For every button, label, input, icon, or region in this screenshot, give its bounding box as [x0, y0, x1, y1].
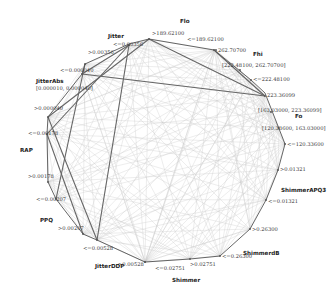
value-label: 223.36099: [267, 92, 295, 98]
value-label: >0.26300: [252, 226, 278, 232]
variable-interval: [0.000010, 0.000040]: [36, 85, 93, 91]
value-node[interactable]: [213, 49, 215, 51]
value-node[interactable]: [239, 69, 241, 71]
value-node[interactable]: [189, 258, 191, 260]
weak-edge: [220, 112, 271, 256]
value-node[interactable]: [219, 255, 221, 257]
value-label: <=120.33600: [287, 141, 324, 147]
weak-edge: [47, 134, 278, 170]
value-node[interactable]: [215, 49, 217, 51]
weak-edge: [149, 39, 220, 256]
value-label: <=0.01321: [268, 198, 298, 204]
value-label: [120.33600, 163.03000]: [262, 125, 325, 131]
value-label: >0.00528: [118, 261, 144, 267]
value-label: <=189.62100: [187, 36, 224, 42]
value-node[interactable]: [277, 169, 279, 171]
value-label: <=222.48100: [253, 76, 290, 82]
network-diagram: Jitter<=0.00356>0.00356Flo>189.62100<=18…: [0, 0, 331, 297]
value-label: <=0.00356: [113, 41, 143, 47]
variable-name: Fo: [295, 113, 303, 119]
value-label: >0.00356: [88, 49, 114, 55]
value-label: <=0.02751: [155, 265, 185, 271]
weak-edge: [48, 182, 190, 259]
variable-name: PPQ: [40, 217, 53, 223]
variable-name: RAP: [20, 147, 33, 153]
value-node[interactable]: [47, 116, 49, 118]
value-label: 262.70700: [218, 47, 246, 53]
variable-name: Jitter: [107, 33, 124, 40]
variable-name: JitterAbs: [35, 78, 64, 85]
value-node[interactable]: [81, 73, 83, 75]
value-node[interactable]: [265, 199, 267, 201]
value-label: <=0.26300: [222, 253, 252, 259]
value-node[interactable]: [284, 143, 286, 145]
value-node[interactable]: [148, 38, 150, 40]
value-node[interactable]: [84, 63, 86, 65]
value-node[interactable]: [250, 79, 252, 81]
variable-name: Flo: [180, 18, 190, 24]
value-label: <=0.00528: [83, 245, 113, 251]
value-label: >0.00178: [28, 173, 54, 179]
value-node[interactable]: [96, 239, 98, 241]
value-label: [222.48100, 262.70700]: [222, 62, 285, 68]
value-node[interactable]: [249, 228, 251, 230]
value-label: [163.03000, 223.36099]: [258, 107, 321, 113]
value-node[interactable]: [47, 181, 49, 183]
value-node[interactable]: [264, 95, 266, 97]
weak-edge: [56, 199, 266, 200]
value-label: >189.62100: [152, 30, 184, 36]
value-label: <=0.00178: [28, 130, 58, 136]
weak-edge: [129, 45, 145, 262]
variable-name: ShimmerAPQ3: [281, 187, 326, 193]
weak-edge: [190, 170, 278, 259]
value-node[interactable]: [144, 261, 146, 263]
value-label: <=0.000040: [60, 67, 93, 73]
weak-edge: [47, 112, 271, 134]
variable-name: Shimmer: [172, 277, 200, 283]
weak-edge: [47, 134, 266, 200]
value-label: >0.01321: [280, 166, 306, 172]
weak-edge: [48, 70, 240, 117]
value-label: >0.02751: [190, 261, 216, 267]
value-label: >0.000040: [34, 105, 63, 111]
value-label: >0.00207: [58, 225, 84, 231]
value-node[interactable]: [82, 233, 84, 235]
value-label: <=0.00207: [36, 196, 66, 202]
variable-name: Fhi: [253, 51, 263, 57]
weak-edge: [48, 96, 265, 117]
